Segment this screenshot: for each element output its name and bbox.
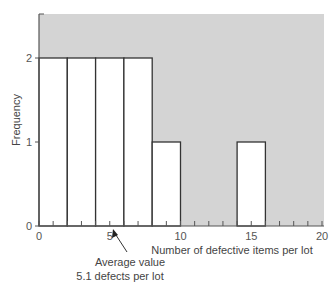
x-tick-label: 5: [107, 230, 113, 242]
histogram-bar: [96, 58, 124, 226]
x-tick-label: 10: [174, 230, 186, 242]
y-axis-ticks: 012: [26, 52, 39, 232]
x-tick-label: 15: [245, 230, 257, 242]
average-annotation: Average value 5.1 defects per lot: [76, 229, 165, 282]
histogram-bar: [67, 58, 95, 226]
histogram-bar: [237, 142, 265, 226]
y-tick-label: 0: [26, 220, 32, 232]
histogram-bar: [152, 142, 180, 226]
histogram-bar: [124, 58, 152, 226]
y-axis-title: Frequency: [10, 94, 22, 146]
histogram-chart: 05101520 012 Frequency Number of defecti…: [0, 0, 335, 292]
x-tick-label: 20: [316, 230, 328, 242]
x-tick-label: 0: [36, 230, 42, 242]
annotation-line-1: Average value: [95, 256, 165, 268]
y-tick-label: 2: [26, 52, 32, 64]
histogram-bar: [39, 58, 67, 226]
x-axis-title: Number of defective items per lot: [151, 244, 312, 256]
y-tick-label: 1: [26, 136, 32, 148]
annotation-line-2: 5.1 defects per lot: [76, 270, 163, 282]
